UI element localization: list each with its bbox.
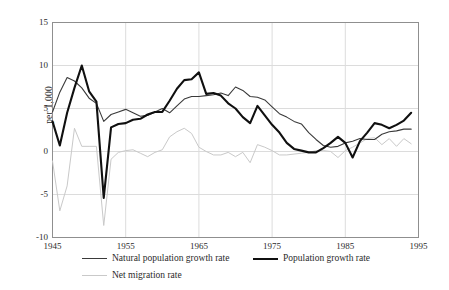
legend-label-population-growth-rate: Population growth rate xyxy=(283,254,370,264)
population-growth-line-chart: per 1,000 151050-5-10 194519551965197519… xyxy=(0,0,449,290)
gridlines xyxy=(53,66,419,195)
series-line-natural-population-growth-rate xyxy=(53,78,412,148)
legend-item-natural-population-growth-rate: Natural population growth rate xyxy=(82,254,229,264)
plot-area xyxy=(0,0,449,290)
legend-swatch-population-growth-rate xyxy=(253,258,278,260)
series-line-population-growth-rate xyxy=(53,66,412,198)
legend-label-net-migration-rate: Net migration rate xyxy=(112,271,182,281)
chart-legend: Natural population growth rate Populatio… xyxy=(0,252,449,288)
legend-swatch-net-migration-rate xyxy=(82,275,107,276)
x-axis-ticks xyxy=(53,23,419,238)
legend-item-net-migration-rate: Net migration rate xyxy=(82,271,182,281)
plot-frame xyxy=(53,23,419,238)
legend-swatch-natural-population-growth-rate xyxy=(82,258,107,259)
legend-label-natural-population-growth-rate: Natural population growth rate xyxy=(112,254,229,264)
legend-item-population-growth-rate: Population growth rate xyxy=(253,254,370,264)
